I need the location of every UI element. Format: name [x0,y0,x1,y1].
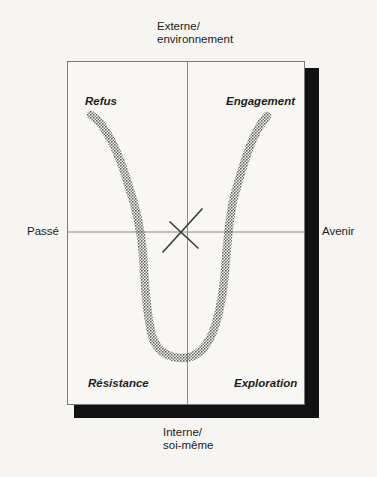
quadrant-label-resistance: Résistance [88,377,149,389]
u-curve [91,115,267,358]
axis-label-top-line1: Externe/ [157,20,233,33]
axis-label-right: Avenir [322,225,354,238]
axis-label-bottom-line2: soi-même [163,439,213,452]
x-mark [163,209,202,252]
quadrant-label-exploration: Exploration [234,377,297,389]
quadrant-label-engagement: Engagement [226,95,295,107]
diagram-graphics [0,0,377,477]
quadrant-label-refus: Refus [85,95,117,107]
axis-label-bottom: Interne/ soi-même [163,426,213,452]
axis-label-bottom-line1: Interne/ [163,426,213,439]
axis-label-top-line2: environnement [157,33,233,46]
figure-canvas: Externe/ environnement Interne/ soi-même… [0,0,377,477]
axis-label-top: Externe/ environnement [157,20,233,46]
axis-label-left: Passé [27,225,59,238]
